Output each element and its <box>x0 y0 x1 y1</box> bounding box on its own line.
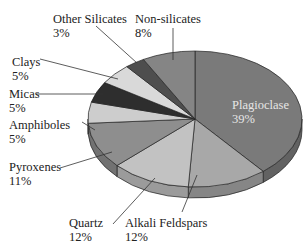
label-clays: Clays 5% <box>12 55 40 83</box>
label-plagioclase: Plagioclase 39% <box>232 98 289 126</box>
label-amphiboles: Amphiboles 5% <box>9 118 70 146</box>
label-alkali-feldspars: Alkali Feldspars 12% <box>125 216 207 244</box>
label-micas: Micas 5% <box>9 87 40 115</box>
leader-line <box>40 59 118 79</box>
label-pyroxenes: Pyroxenes 11% <box>9 160 61 188</box>
label-quartz: Quartz 12% <box>69 216 103 244</box>
label-non-silicates: Non-silicates 8% <box>135 12 201 40</box>
label-other-silicates: Other Silicates 3% <box>53 12 127 40</box>
